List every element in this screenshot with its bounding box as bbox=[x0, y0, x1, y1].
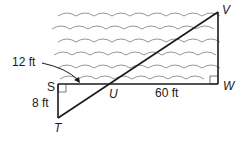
label-su-length: 12 ft bbox=[12, 55, 36, 69]
point-label-w: W bbox=[223, 79, 236, 93]
point-label-t: T bbox=[54, 121, 63, 135]
label-uw-length: 60 ft bbox=[155, 86, 179, 100]
label-st-length: 8 ft bbox=[32, 96, 49, 110]
wave-row-2 bbox=[52, 26, 214, 29]
wave-row-5 bbox=[58, 65, 220, 68]
wave-row-3 bbox=[58, 39, 220, 42]
wave-row-1 bbox=[58, 13, 220, 16]
point-label-v: V bbox=[222, 3, 231, 17]
right-angle-marker-w bbox=[210, 76, 218, 84]
wave-row-6 bbox=[60, 76, 204, 79]
wave-row-4 bbox=[54, 52, 216, 55]
similar-triangles-river-diagram: 12 ft 8 ft 60 ft S T U V W bbox=[0, 0, 248, 144]
pointer-arrow-line bbox=[42, 63, 78, 80]
point-label-s: S bbox=[47, 80, 55, 94]
river-waves bbox=[52, 13, 220, 79]
right-angle-marker-s bbox=[58, 84, 66, 92]
point-label-u: U bbox=[109, 87, 118, 101]
